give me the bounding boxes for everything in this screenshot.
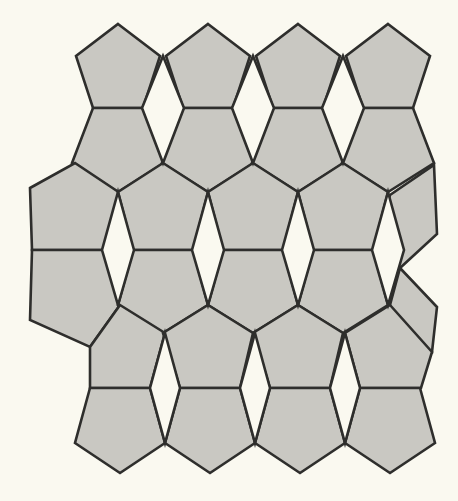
tiling-figure [0, 0, 458, 501]
pentagon-layer [30, 24, 437, 473]
tiling-canvas [0, 0, 458, 501]
